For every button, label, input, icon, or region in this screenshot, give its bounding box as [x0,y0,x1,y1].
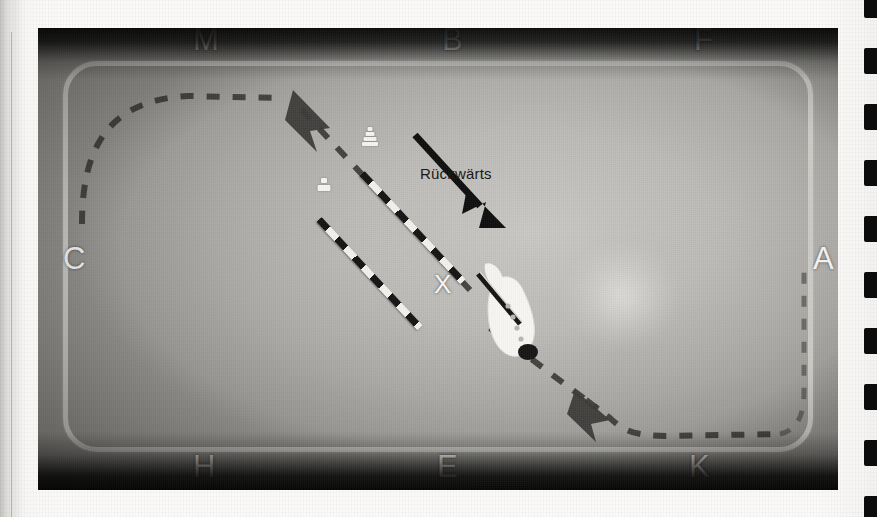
horse-hindquarter [518,344,538,360]
marker-x: X [434,271,451,297]
binding-tab [864,272,877,298]
horse-marking [518,336,523,341]
page-gutter-line [11,32,12,517]
arena-photo: Rückwärts X M B F C A H E K [38,28,838,490]
binding-tab [864,104,877,130]
letter-b: B [442,28,463,55]
rueckwaerts-arrow [38,28,838,490]
scanned-page: Rückwärts X M B F C A H E K [0,0,877,517]
letter-c: C [63,243,86,274]
binding-tab [864,440,877,466]
binding-tab [864,496,877,517]
binding-tab [864,160,877,186]
letter-h: H [193,451,216,482]
binding-tab [864,216,877,242]
horse-marking [505,303,510,308]
binding-tab [864,48,877,74]
letter-k: K [689,451,710,482]
horse-marking [514,325,519,330]
rueckwaerts-label: Rückwärts [420,165,492,182]
binding-tab [864,0,877,18]
binding-tab [864,328,877,354]
spiral-binding [863,0,877,517]
letter-f: F [694,28,713,55]
binding-tab [864,384,877,410]
letter-a: A [813,243,834,274]
letter-m: M [193,28,219,55]
horse-and-rider [462,260,572,382]
letter-e: E [437,451,458,482]
horse-marking [510,314,515,319]
rueckwaerts-arrow-head [462,188,506,228]
